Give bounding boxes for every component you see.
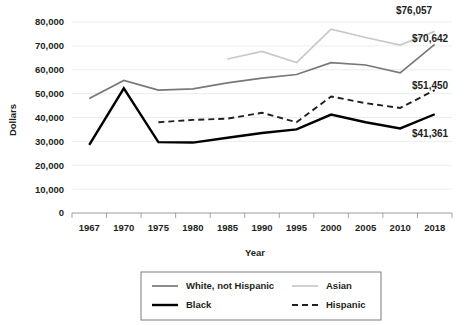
y-tick-label: 80,000 <box>35 16 64 27</box>
x-tick-label: 1985 <box>217 222 239 233</box>
line-chart: 010,00020,00030,00040,00050,00060,00070,… <box>0 0 471 325</box>
x-tick-label: 1970 <box>113 222 134 233</box>
x-tick-label: 1975 <box>148 222 170 233</box>
x-axis-title: Year <box>245 247 265 258</box>
legend: White, not HispanicAsianBlackHispanic <box>141 272 381 320</box>
x-tick-label: 1980 <box>182 222 203 233</box>
x-axis <box>72 213 452 218</box>
x-tick-label: 2018 <box>424 222 445 233</box>
y-tick-label: 60,000 <box>35 64 64 75</box>
y-axis-title: Dollars <box>7 104 18 136</box>
x-tick-label: 2010 <box>390 222 411 233</box>
series-lines <box>89 29 434 145</box>
legend-label-black: Black <box>186 299 212 310</box>
x-tick-label: 2005 <box>355 222 377 233</box>
y-tick-label: 20,000 <box>35 160 64 171</box>
legend-label-white-not-hispanic: White, not Hispanic <box>186 280 274 291</box>
series-line-black <box>89 88 434 145</box>
x-axis-tick-labels: 1967197019751980198519901995200020052010… <box>79 222 446 233</box>
y-tick-label: 50,000 <box>35 88 64 99</box>
data-point-label: $70,642 <box>412 33 449 44</box>
y-tick-label: 40,000 <box>35 112 64 123</box>
x-tick-label: 1990 <box>251 222 272 233</box>
data-point-label: $51,450 <box>412 80 449 91</box>
series-line-white-not-hispanic <box>89 44 434 98</box>
y-axis-tick-labels: 010,00020,00030,00040,00050,00060,00070,… <box>35 16 64 218</box>
legend-label-asian: Asian <box>326 280 352 291</box>
y-tick-label: 70,000 <box>35 40 64 51</box>
x-tick-label: 1995 <box>286 222 308 233</box>
y-tick-label: 30,000 <box>35 136 64 147</box>
data-point-label: $41,361 <box>412 128 449 139</box>
x-tick-label: 2000 <box>321 222 342 233</box>
legend-label-hispanic: Hispanic <box>326 299 366 310</box>
y-tick-label: 0 <box>59 207 64 218</box>
x-tick-label: 1967 <box>79 222 100 233</box>
chart-svg: 010,00020,00030,00040,00050,00060,00070,… <box>0 0 471 325</box>
data-point-label: $76,057 <box>396 5 433 16</box>
y-tick-label: 10,000 <box>35 184 64 195</box>
